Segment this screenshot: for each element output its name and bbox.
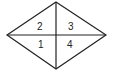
region-label-1: 1 (38, 39, 44, 50)
region-label-3: 3 (68, 21, 74, 32)
region-label-2: 2 (37, 21, 43, 32)
region-label-4: 4 (67, 39, 73, 50)
rhombus-diagram: 2 3 1 4 (0, 0, 120, 78)
